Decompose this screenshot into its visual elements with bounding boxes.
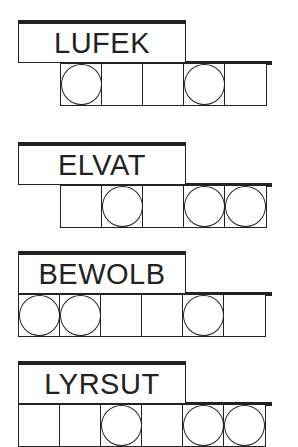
answer-square-circled[interactable] xyxy=(182,404,225,447)
answer-squares xyxy=(60,185,267,228)
scrambled-word-box: BEWOLB xyxy=(18,251,186,294)
answer-square[interactable] xyxy=(101,63,144,106)
answer-square[interactable] xyxy=(141,404,184,447)
answer-squares xyxy=(18,404,266,447)
answer-square-circled[interactable] xyxy=(59,294,102,337)
answer-square[interactable] xyxy=(18,404,61,447)
answer-square-circled[interactable] xyxy=(100,404,143,447)
answer-square-circled[interactable] xyxy=(60,63,103,106)
answer-square[interactable] xyxy=(141,294,184,337)
answer-square[interactable] xyxy=(224,63,267,106)
answer-square[interactable] xyxy=(60,185,103,228)
answer-squares xyxy=(60,63,267,106)
answer-square[interactable] xyxy=(142,185,185,228)
scrambled-word: ELVAT xyxy=(58,151,146,180)
scrambled-word: BEWOLB xyxy=(38,260,165,289)
answer-square-circled[interactable] xyxy=(223,404,266,447)
scrambled-word: LUFEK xyxy=(54,29,150,58)
answer-square[interactable] xyxy=(100,294,143,337)
answer-square[interactable] xyxy=(59,404,102,447)
answer-square-circled[interactable] xyxy=(183,63,226,106)
answer-square[interactable] xyxy=(142,63,185,106)
scrambled-word: LYRSUT xyxy=(44,370,159,399)
answer-square-circled[interactable] xyxy=(224,185,267,228)
scrambled-word-box: LYRSUT xyxy=(18,361,186,404)
scrambled-word-box: LUFEK xyxy=(18,20,186,63)
answer-squares xyxy=(18,294,266,337)
answer-square-circled[interactable] xyxy=(18,294,61,337)
answer-square-circled[interactable] xyxy=(183,185,226,228)
answer-square-circled[interactable] xyxy=(101,185,144,228)
scrambled-word-box: ELVAT xyxy=(18,142,186,185)
answer-square-circled[interactable] xyxy=(182,294,225,337)
answer-square[interactable] xyxy=(223,294,266,337)
